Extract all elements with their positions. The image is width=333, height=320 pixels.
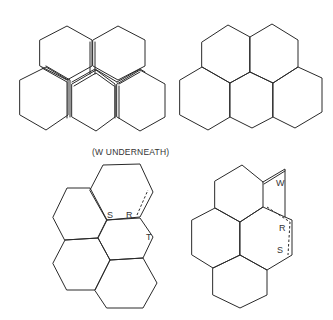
caption-w-underneath: (W UNDERNEATH) — [92, 147, 169, 157]
hexagon-tile — [180, 67, 230, 130]
point-label-t: T — [146, 232, 152, 242]
point-label-r: R — [279, 223, 286, 233]
hexagon-tile — [40, 26, 92, 80]
hexagon-tile — [230, 72, 273, 128]
hexagon-tile — [117, 70, 165, 131]
hexagon-tile — [53, 238, 110, 290]
point-label-r: R — [126, 210, 133, 220]
hexagon-tile — [72, 70, 115, 131]
hexagon-tile — [95, 258, 157, 308]
figure-labeled-srt: SRT — [53, 164, 157, 308]
hexagon-tile — [202, 25, 250, 83]
hexagon-tile — [240, 207, 292, 270]
point-label-w: W — [276, 178, 285, 188]
point-label-s: S — [277, 245, 283, 255]
hexagon-tile — [250, 24, 298, 83]
figure-overlapping-tiles — [20, 26, 165, 131]
hexagon-tile — [215, 165, 263, 222]
hexagon-tile — [53, 188, 107, 240]
point-label-s: S — [107, 210, 113, 220]
hexagon-tile — [90, 164, 153, 220]
hexagon-tiling-diagram: (W UNDERNEATH) SRT WRS — [0, 0, 333, 320]
figure-assembled-tiles — [180, 24, 322, 130]
hexagon-tile — [273, 67, 322, 128]
flap-line — [263, 169, 285, 217]
hexagon-tile — [213, 255, 267, 308]
figure-labeled-wrs: WRS — [192, 165, 292, 308]
